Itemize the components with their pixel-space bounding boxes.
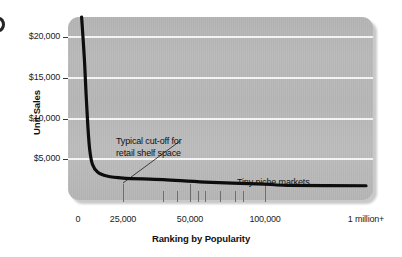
y-tick-label-1: $15,000	[0, 72, 60, 82]
y-tick-label-2: $10,000	[0, 113, 60, 123]
x-tick-label-2: 50,000	[150, 214, 230, 224]
annotation-tiny-niche-markets: Tiny niche markets	[237, 177, 310, 189]
long-tail-chart-figure: Typical cut-off for retail shelf space T…	[0, 0, 402, 257]
y-tick-label-0: $20,000	[0, 31, 60, 41]
y-tick-label-3: $5,000	[0, 153, 60, 163]
x-axis-title: Ranking by Popularity	[0, 233, 402, 244]
data-curve-unit-sales	[82, 17, 366, 186]
x-tick-label-4: 1 million+	[326, 214, 402, 224]
plot-overlay	[68, 17, 373, 200]
x-tick-label-3: 100,000	[225, 214, 305, 224]
annotation-typical-cutoff: Typical cut-off for retail shelf space	[116, 136, 182, 159]
